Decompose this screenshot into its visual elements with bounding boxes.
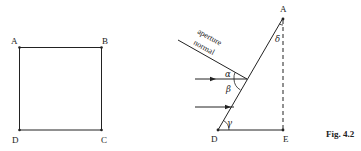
- square-outline: [20, 48, 102, 131]
- angle-arc-delta: [280, 24, 284, 25]
- angle-label-beta: β: [225, 84, 231, 94]
- aperture-diagram: A D E aperture normal α β γ δ: [178, 4, 289, 144]
- square-diagram: A B D C: [11, 36, 108, 145]
- right-label-a: A: [280, 4, 287, 14]
- vertex-dot-d: [18, 129, 21, 132]
- square-label-d: D: [12, 135, 19, 145]
- right-label-e: E: [283, 134, 289, 144]
- vertex-dot-e-right: [282, 129, 285, 132]
- arrowhead-upper-icon: [210, 77, 216, 81]
- vertex-dot-a-right: [282, 18, 285, 21]
- square-label-a: A: [11, 36, 18, 46]
- vertex-dot-b: [100, 46, 103, 49]
- angle-arc-alpha: [234, 73, 235, 80]
- angle-arc-beta: [234, 79, 241, 90]
- right-label-d: D: [211, 134, 218, 144]
- vertex-dot-c: [100, 129, 103, 132]
- square-label-b: B: [102, 36, 108, 46]
- angle-label-alpha: α: [225, 69, 231, 79]
- figure-canvas: A B D C A D E aperture normal: [0, 0, 361, 151]
- angle-label-delta: δ: [275, 34, 280, 44]
- square-label-c: C: [101, 135, 107, 145]
- vertex-dot-d-right: [217, 129, 220, 132]
- vertex-dot-a: [18, 46, 21, 49]
- figure-caption: Fig. 4.2: [326, 129, 355, 139]
- angle-label-gamma: γ: [227, 118, 233, 128]
